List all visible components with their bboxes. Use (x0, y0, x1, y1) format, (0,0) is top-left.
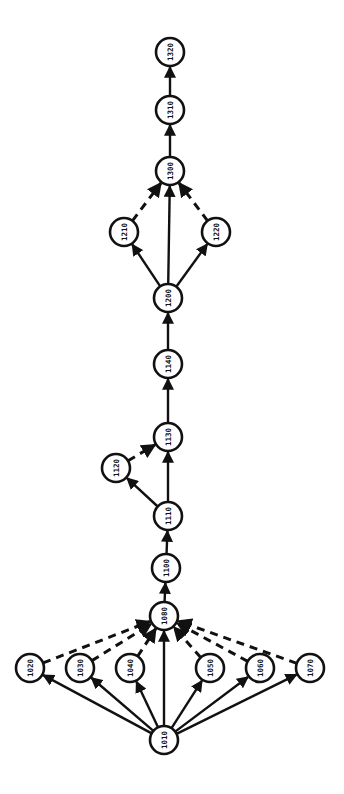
node-1010: 1010 (150, 726, 178, 754)
edge-1210-to-1300 (132, 183, 161, 221)
edge-1010-to-1050 (172, 681, 202, 729)
edge-1080-to-1100 (165, 583, 166, 602)
edge-1030-to-1080 (92, 624, 151, 661)
node-1110: 1110 (154, 502, 182, 530)
node-1050: 1050 (196, 654, 224, 682)
node-label: 1220 (212, 222, 221, 241)
node-label: 1050 (206, 658, 215, 677)
node-label: 1310 (166, 100, 175, 119)
node-label: 1060 (256, 658, 265, 677)
node-1220: 1220 (202, 218, 230, 246)
node-1060: 1060 (246, 654, 274, 682)
edge-1200-to-1210 (132, 244, 160, 286)
node-label: 1210 (120, 222, 129, 241)
edge-1010-to-1070 (177, 675, 297, 734)
dependency-graph: 1320131013001210122012001140113011201110… (0, 0, 344, 794)
node-label: 1020 (26, 658, 35, 677)
edge-1040-to-1080 (138, 629, 156, 657)
node-label: 1010 (160, 730, 169, 749)
node-label: 1030 (76, 658, 85, 677)
node-label: 1140 (164, 354, 173, 373)
node-label: 1130 (164, 427, 173, 446)
node-label: 1320 (166, 42, 175, 61)
node-1020: 1020 (16, 654, 44, 682)
edge-1070-to-1080 (178, 621, 297, 663)
node-label: 1110 (164, 506, 173, 525)
node-label: 1040 (126, 658, 135, 677)
edge-1050-to-1080 (174, 627, 201, 657)
edge-1200-to-1300 (168, 186, 170, 284)
node-1140: 1140 (154, 350, 182, 378)
node-1130: 1130 (154, 423, 182, 451)
edge-1220-to-1300 (179, 183, 208, 221)
node-1310: 1310 (156, 96, 184, 124)
node-label: 1120 (112, 458, 121, 477)
edge-1100-to-1110 (167, 531, 168, 554)
node-1200: 1200 (154, 284, 182, 312)
node-1080: 1080 (150, 602, 178, 630)
edge-1120-to-1130 (128, 445, 155, 461)
edge-1200-to-1220 (176, 244, 207, 287)
node-1040: 1040 (116, 654, 144, 682)
node-label: 1200 (164, 288, 173, 307)
edge-1010-to-1030 (91, 678, 153, 731)
node-1120: 1120 (102, 454, 130, 482)
node-label: 1070 (306, 658, 315, 677)
node-1210: 1210 (110, 218, 138, 246)
node-1030: 1030 (66, 654, 94, 682)
node-1320: 1320 (156, 38, 184, 66)
node-1300: 1300 (156, 157, 184, 185)
node-label: 1100 (162, 558, 171, 577)
node-label: 1300 (166, 161, 175, 180)
node-1070: 1070 (296, 654, 324, 682)
node-label: 1080 (160, 606, 169, 625)
edge-1110-to-1120 (127, 478, 158, 506)
node-1100: 1100 (152, 554, 180, 582)
